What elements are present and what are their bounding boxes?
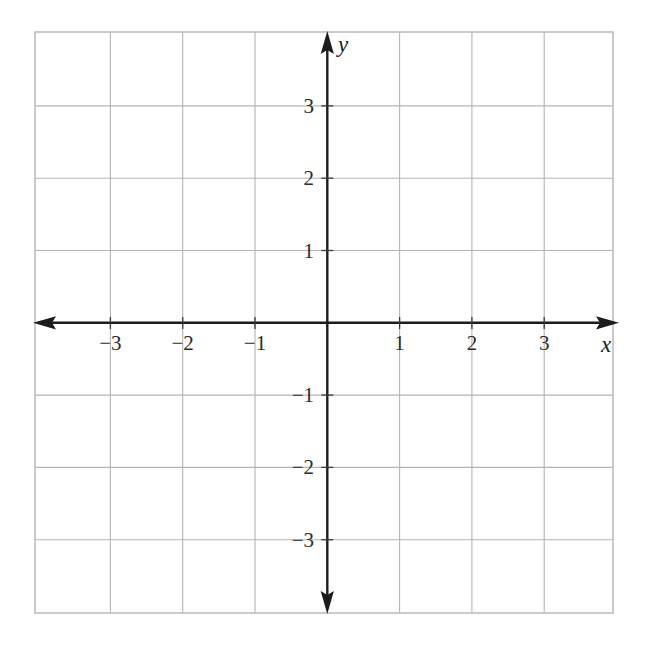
x-tick-label-3: 3 <box>539 333 550 354</box>
x-tick-label--2: −2 <box>172 333 194 354</box>
y-tick-label-1: 1 <box>304 240 315 261</box>
y-tick-label--1: −1 <box>292 385 314 406</box>
y-axis-label: y <box>338 33 348 56</box>
y-tick-label--2: −2 <box>292 457 314 478</box>
y-tick-label-3: 3 <box>304 95 315 116</box>
x-tick-label--1: −1 <box>244 333 266 354</box>
x-tick-label-2: 2 <box>467 333 478 354</box>
x-axis-label: x <box>601 333 611 356</box>
coordinate-plane-figure: −3 −2 −1 1 2 3 3 2 1 −1 −2 −3 y x <box>0 0 645 646</box>
y-tick-label-2: 2 <box>304 168 315 189</box>
x-tick-label--3: −3 <box>99 333 121 354</box>
graph-canvas <box>0 0 645 646</box>
x-tick-label-1: 1 <box>394 333 405 354</box>
y-tick-label--3: −3 <box>292 529 314 550</box>
